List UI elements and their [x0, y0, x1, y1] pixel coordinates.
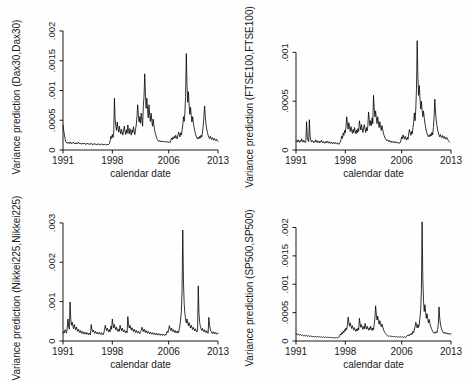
x-tick-label: 1998 — [101, 155, 124, 166]
y-tick-label: 0 — [279, 338, 290, 343]
y-axis-label: Variance prediction (Nikkei225,Nikkei225… — [11, 196, 22, 381]
y-tick-label: .001 — [46, 292, 57, 311]
y-tick-label: 0 — [279, 147, 290, 152]
x-tick-label: 1991 — [285, 155, 308, 166]
x-tick-label: 1991 — [52, 346, 75, 357]
y-tick-label: .0005 — [46, 108, 57, 132]
y-tick-label: .001 — [46, 81, 57, 100]
y-tick-label: .001 — [279, 43, 290, 62]
series-line — [63, 230, 218, 336]
x-tick-label: 1998 — [101, 346, 124, 357]
x-tick-label: 1991 — [285, 346, 308, 357]
panel-top-right-svg: 0.0005.0011991199820062013calendar dateV… — [233, 0, 466, 191]
x-tick-label: 2006 — [391, 155, 414, 166]
series-line — [296, 222, 451, 338]
x-tick-label: 2013 — [207, 155, 230, 166]
series-line — [296, 41, 450, 145]
y-tick-label: 0 — [46, 338, 57, 343]
panel-top-right: 0.0005.0011991199820062013calendar dateV… — [233, 0, 466, 191]
y-tick-label: .0015 — [46, 49, 57, 73]
x-axis-label: calendar date — [110, 359, 171, 370]
y-tick-label: .0015 — [279, 244, 290, 268]
y-axis-label: Variance prediction (FTSE100,FTSE100) — [244, 6, 255, 188]
y-tick-label: .0005 — [279, 301, 290, 325]
y-tick-label: .0005 — [279, 89, 290, 113]
x-tick-label: 2006 — [391, 346, 414, 357]
y-tick-label: .001 — [279, 275, 290, 294]
panel-top-left-svg: 0.0005.001.0015.0021991199820062013calen… — [0, 0, 233, 191]
y-axis-label: Variance prediction (Dax30,Dax30) — [11, 20, 22, 175]
x-tick-label: 1998 — [334, 155, 357, 166]
y-tick-label: .002 — [46, 22, 57, 41]
x-axis-label: calendar date — [343, 359, 404, 370]
panel-bottom-right: 0.0005.001.0015.0021991199820062013calen… — [233, 191, 466, 382]
x-tick-label: 2006 — [158, 346, 181, 357]
panel-bottom-left-svg: 0.001.002.0031991199820062013calendar da… — [0, 191, 233, 382]
x-tick-label: 2013 — [440, 155, 463, 166]
panel-bottom-left: 0.001.002.0031991199820062013calendar da… — [0, 191, 233, 382]
y-axis-label: Variance prediction (SP500,SP500) — [244, 209, 255, 366]
x-axis-label: calendar date — [343, 168, 404, 179]
x-tick-label: 2006 — [158, 155, 181, 166]
x-tick-label: 1991 — [52, 155, 75, 166]
x-axis-label: calendar date — [110, 168, 171, 179]
figure-container: 0.0005.001.0015.0021991199820062013calen… — [0, 0, 466, 382]
y-tick-label: .002 — [46, 253, 57, 272]
y-tick-label: .002 — [279, 218, 290, 237]
y-tick-label: .003 — [46, 214, 57, 233]
panel-bottom-right-svg: 0.0005.001.0015.0021991199820062013calen… — [233, 191, 466, 382]
x-tick-label: 2013 — [440, 346, 463, 357]
x-tick-label: 1998 — [334, 346, 357, 357]
y-tick-label: 0 — [46, 147, 57, 152]
x-tick-label: 2013 — [207, 346, 230, 357]
panel-top-left: 0.0005.001.0015.0021991199820062013calen… — [0, 0, 233, 191]
series-line — [63, 54, 218, 146]
